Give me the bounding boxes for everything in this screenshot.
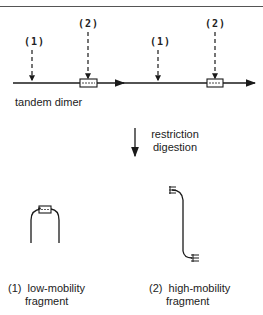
site-label-2-right: (2) (205, 18, 226, 29)
product-1-number: (1) (8, 282, 21, 294)
digestion-label-line-1: restriction (145, 128, 205, 141)
product-2-number: (2) (149, 282, 162, 294)
low-mobility-fragment-shape (31, 206, 59, 243)
site-2-arrow-left (80, 32, 97, 87)
site-2-arrow-right (207, 32, 223, 87)
high-mobility-fragment-shape (169, 186, 199, 262)
digestion-label: restriction digestion (145, 128, 205, 154)
product-1-name-line-2: fragment (8, 295, 85, 308)
site-label-1-left: (1) (24, 36, 45, 47)
product-2-label: (2) high-mobility fragment (149, 282, 230, 308)
product-2-name-line-2: fragment (149, 295, 230, 308)
site-label-2-left: (2) (78, 18, 99, 29)
tandem-dimer-label: tandem dimer (15, 96, 82, 109)
diagram-graphics (0, 0, 263, 315)
site-label-1-right: (1) (150, 36, 171, 47)
product-1-label: (1) low-mobility fragment (8, 282, 85, 308)
digestion-label-line-2: digestion (145, 141, 205, 154)
product-2-name: high-mobility (169, 282, 231, 294)
product-1-name: low-mobility (28, 282, 85, 294)
